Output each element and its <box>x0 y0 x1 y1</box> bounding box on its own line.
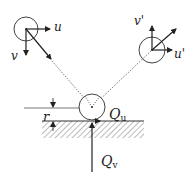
outgoing-velocity-arrow <box>152 29 176 50</box>
u-label: u <box>54 20 62 34</box>
incoming-particle: u v <box>11 17 62 63</box>
r-label: r <box>43 109 50 124</box>
Qu-label: Qu <box>109 106 126 123</box>
particle-collision-diagram: u v v' u' r Qu Qv <box>0 0 195 186</box>
contact-particle <box>79 94 105 120</box>
v-prime-label: v' <box>134 14 144 28</box>
Qv-label: Qv <box>101 153 118 170</box>
ground-hatch <box>42 121 144 138</box>
incoming-velocity-arrow <box>26 29 51 59</box>
v-label: v <box>11 49 18 63</box>
u-prime-label: u' <box>174 47 185 61</box>
outgoing-particle: v' u' <box>134 14 185 63</box>
